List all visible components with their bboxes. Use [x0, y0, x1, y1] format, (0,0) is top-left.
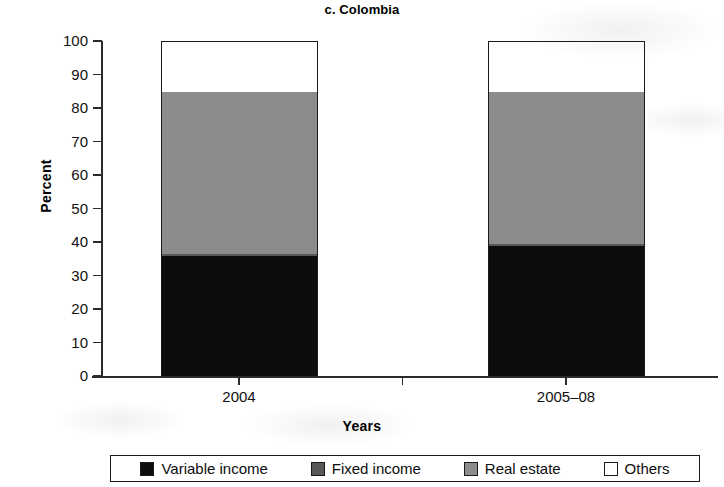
- y-tick: [93, 107, 102, 108]
- y-tick-label: 80: [28, 100, 88, 115]
- bar-segment: [489, 246, 644, 376]
- y-tick-label: 90: [28, 67, 88, 82]
- bar-segment: [489, 92, 644, 244]
- plot-area: [102, 41, 718, 376]
- legend-swatch-icon: [464, 462, 478, 476]
- y-tick: [93, 174, 102, 175]
- legend-label: Variable income: [161, 461, 267, 476]
- legend-swatch-icon: [604, 462, 618, 476]
- bar-segment: [162, 42, 317, 92]
- y-tick: [93, 40, 102, 41]
- y-tick-label: 60: [28, 167, 88, 182]
- chart-figure: c. Colombia Percent 01020304050607080901…: [0, 0, 724, 487]
- legend-item: Variable income: [140, 461, 267, 476]
- legend-item: Others: [604, 461, 670, 476]
- y-tick-label: 20: [28, 301, 88, 316]
- x-axis-line: [92, 376, 718, 378]
- y-tick-label: 0: [28, 368, 88, 383]
- legend-swatch-icon: [311, 462, 325, 476]
- y-tick: [93, 308, 102, 309]
- y-tick-label: 30: [28, 268, 88, 283]
- chart-title: c. Colombia: [0, 2, 724, 17]
- x-tick-label: 2004: [159, 388, 319, 405]
- x-axis-label: Years: [0, 418, 724, 434]
- x-tick: [402, 376, 403, 385]
- x-tick-label: 2005–08: [486, 388, 646, 405]
- x-tick: [565, 376, 566, 385]
- y-tick-label: 70: [28, 134, 88, 149]
- y-tick-label: 40: [28, 234, 88, 249]
- legend-swatch-icon: [140, 462, 154, 476]
- legend-label: Others: [625, 461, 670, 476]
- bar-segment: [489, 42, 644, 92]
- y-tick-label: 100: [28, 33, 88, 48]
- y-tick: [93, 375, 102, 376]
- y-tick: [93, 241, 102, 242]
- stacked-bar: [161, 41, 318, 376]
- bar-segment: [162, 92, 317, 254]
- bar-segment: [162, 256, 317, 376]
- legend-item: Fixed income: [311, 461, 421, 476]
- y-tick: [93, 208, 102, 209]
- y-tick: [93, 74, 102, 75]
- legend-label: Real estate: [485, 461, 561, 476]
- y-tick: [93, 141, 102, 142]
- stacked-bar: [488, 41, 645, 376]
- legend-label: Fixed income: [332, 461, 421, 476]
- x-tick: [238, 376, 239, 385]
- legend-item: Real estate: [464, 461, 561, 476]
- chart-legend: Variable incomeFixed incomeReal estateOt…: [110, 455, 700, 482]
- y-tick-label: 10: [28, 335, 88, 350]
- y-tick: [93, 275, 102, 276]
- y-tick-label: 50: [28, 201, 88, 216]
- y-tick: [93, 342, 102, 343]
